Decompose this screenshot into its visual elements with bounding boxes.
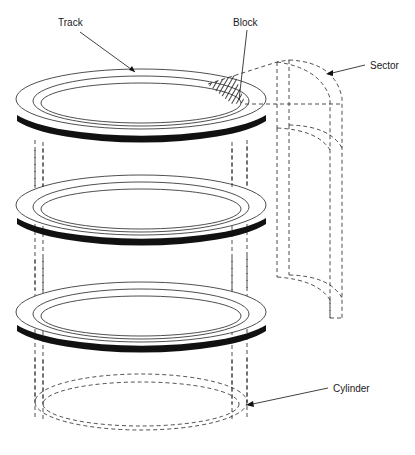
label-sector: Sector <box>370 60 400 71</box>
label-sector-group: Sector <box>326 60 400 76</box>
cylinder-base <box>35 374 247 430</box>
label-block: Block <box>233 17 258 28</box>
label-cylinder-group: Cylinder <box>246 89 370 407</box>
label-cylinder: Cylinder <box>333 383 370 394</box>
label-track-group: Track <box>58 17 135 72</box>
platter-3 <box>16 282 266 352</box>
platter-2 <box>16 175 266 245</box>
platter-1 <box>16 69 266 142</box>
label-track: Track <box>58 17 84 28</box>
disk-geometry-diagram: Track Block Sector Cylinder <box>0 0 415 455</box>
